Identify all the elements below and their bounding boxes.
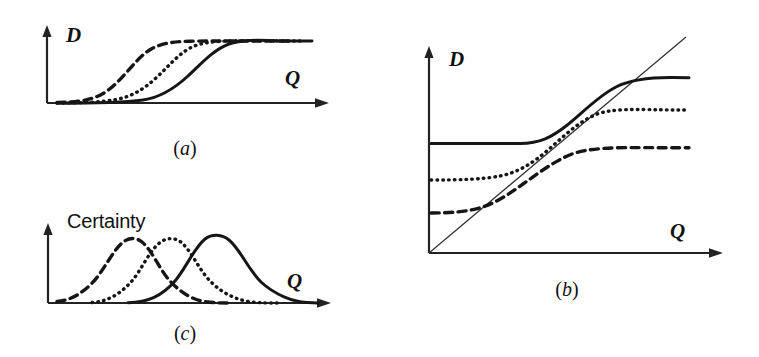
panel-b-caption-letter: b — [562, 278, 572, 300]
panel-b-caption-close-paren: ) — [572, 278, 579, 301]
panel-c-caption-close-paren: ) — [189, 322, 196, 345]
figure-canvas: D Q (a) D Q (b) — [0, 0, 759, 357]
panel-a-caption-close-paren: ) — [190, 137, 197, 160]
panel-a-y-axis-label: D — [65, 23, 81, 47]
panel-c-caption-letter: c — [181, 322, 190, 344]
panel-c-caption: (c) — [174, 322, 196, 345]
panel-a-x-axis-label: Q — [285, 66, 300, 90]
panel-b-y-axis-label: D — [448, 47, 464, 71]
panel-a-caption: (a) — [173, 137, 196, 160]
figure-container: D Q (a) D Q (b) — [0, 0, 759, 357]
panel-a-caption-letter: a — [180, 137, 190, 159]
panel-c-x-axis-label: Q — [287, 269, 302, 293]
panel-b-x-axis-label: Q — [670, 219, 685, 243]
panel-b-caption: (b) — [555, 278, 578, 301]
panel-c-y-axis-label: Certainty — [67, 210, 145, 232]
